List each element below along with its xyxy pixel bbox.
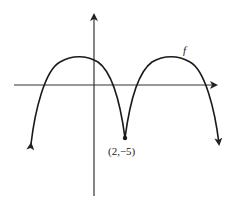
cusp-point-marker: [123, 136, 127, 140]
curve-left-arch: [31, 57, 125, 144]
curve-right-arch: [125, 57, 219, 144]
function-label: f: [183, 44, 186, 56]
function-graph: [0, 0, 234, 204]
cusp-point-label: (2,−5): [108, 145, 135, 157]
